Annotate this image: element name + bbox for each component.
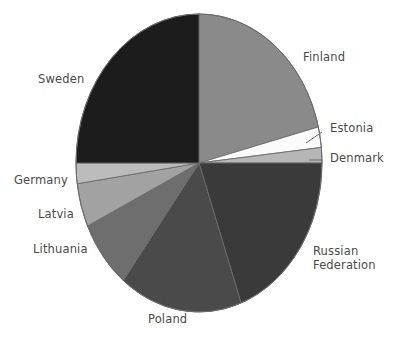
pie-label-finland: Finland xyxy=(303,51,345,65)
pie-chart: Sweden Finland Estonia Denmark RussianFe… xyxy=(0,0,393,341)
pie-label-denmark: Denmark xyxy=(330,152,384,166)
pie-label-latvia: Latvia xyxy=(38,208,74,222)
pie-label-sweden: Sweden xyxy=(38,73,84,87)
pie-label-estonia: Estonia xyxy=(330,122,373,136)
pie-label-poland: Poland xyxy=(148,313,187,327)
pie-label-germany: Germany xyxy=(14,174,68,188)
pie-label-lithuania: Lithuania xyxy=(33,243,88,257)
pie-slices-group xyxy=(76,14,322,312)
pie-label-russian-federation: RussianFederation xyxy=(313,245,376,272)
pie-slice-sweden[interactable] xyxy=(76,14,199,163)
pie-label-russian-line2: Federation xyxy=(313,258,376,272)
pie-label-russian-line1: Russian xyxy=(313,244,358,258)
